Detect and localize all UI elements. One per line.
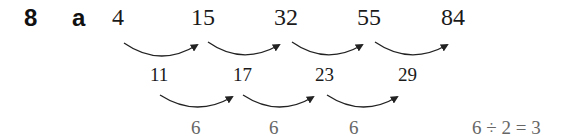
arrow-icon: [327, 95, 397, 107]
arrow-icon: [208, 42, 279, 55]
arrow-icon: [160, 95, 232, 107]
arrow-icon: [124, 43, 197, 56]
difference-arrows: [0, 0, 574, 139]
arrow-icon: [292, 42, 362, 55]
arrow-icon: [243, 95, 313, 107]
arrow-icon: [375, 42, 447, 55]
